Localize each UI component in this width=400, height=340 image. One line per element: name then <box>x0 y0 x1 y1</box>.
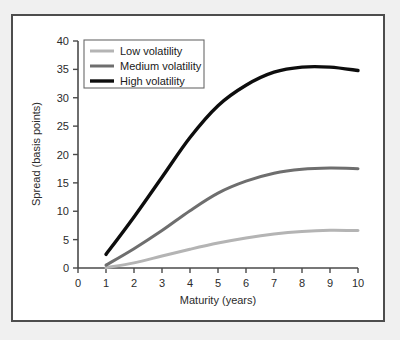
line-chart: 0510152025303540 012345678910 Spread (ba… <box>24 26 374 312</box>
y-tick-label: 25 <box>57 120 69 132</box>
y-tick-label: 35 <box>57 63 69 75</box>
x-tick-label: 6 <box>243 277 249 289</box>
y-tick-label: 15 <box>57 177 69 189</box>
series-line-high-volatility <box>106 67 358 255</box>
x-tick-label: 1 <box>103 277 109 289</box>
y-tick-label: 5 <box>63 234 69 246</box>
legend-label-2: High volatility <box>120 75 185 87</box>
legend-label-0: Low volatility <box>120 45 183 57</box>
y-tick-label: 40 <box>57 35 69 47</box>
series-line-low-volatility <box>106 230 358 267</box>
series-group <box>106 67 358 268</box>
y-axis-ticks: 0510152025303540 <box>57 35 78 274</box>
y-tick-label: 0 <box>63 262 69 274</box>
x-tick-label: 3 <box>159 277 165 289</box>
y-axis-title: Spread (basis points) <box>30 102 42 206</box>
y-tick-label: 30 <box>57 92 69 104</box>
x-tick-label: 7 <box>271 277 277 289</box>
x-tick-label: 9 <box>327 277 333 289</box>
x-tick-label: 4 <box>187 277 193 289</box>
x-tick-label: 0 <box>75 277 81 289</box>
y-tick-label: 20 <box>57 149 69 161</box>
x-tick-label: 2 <box>131 277 137 289</box>
x-axis-title: Maturity (years) <box>180 294 256 306</box>
x-tick-label: 10 <box>352 277 364 289</box>
series-line-medium-volatility <box>106 168 358 265</box>
y-tick-label: 10 <box>57 205 69 217</box>
x-axis-ticks: 012345678910 <box>75 268 364 289</box>
x-tick-label: 8 <box>299 277 305 289</box>
figure-container: 0510152025303540 012345678910 Spread (ba… <box>0 0 400 340</box>
legend-label-1: Medium volatility <box>120 60 202 72</box>
chart-legend: Low volatilityMedium volatilityHigh vola… <box>84 40 204 88</box>
x-tick-label: 5 <box>215 277 221 289</box>
plot-panel: 0510152025303540 012345678910 Spread (ba… <box>24 26 374 312</box>
